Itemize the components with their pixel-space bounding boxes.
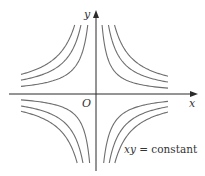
- hyperbola-branch-lower-right: [115, 112, 168, 163]
- hyperbola-branch-upper-left: [21, 25, 88, 86]
- equation-constant: = constant: [136, 143, 198, 155]
- y-axis-label: y: [83, 8, 91, 21]
- y-axis-arrow-icon: [93, 10, 99, 18]
- hyperbola-branch-upper-right: [102, 25, 168, 88]
- hyperbola-branch-upper-left: [21, 25, 75, 74]
- hyperbola-diagram: x y O xy = constant: [0, 0, 205, 176]
- hyperbola-branch-lower-left: [21, 100, 90, 163]
- equation-label: xy = constant: [124, 143, 198, 155]
- hyperbola-branch-lower-left: [21, 106, 83, 163]
- origin-label: O: [82, 97, 91, 110]
- hyperbola-branch-upper-right: [115, 25, 168, 76]
- hyperbola-branch-lower-left: [21, 111, 77, 163]
- x-axis-label: x: [189, 97, 196, 110]
